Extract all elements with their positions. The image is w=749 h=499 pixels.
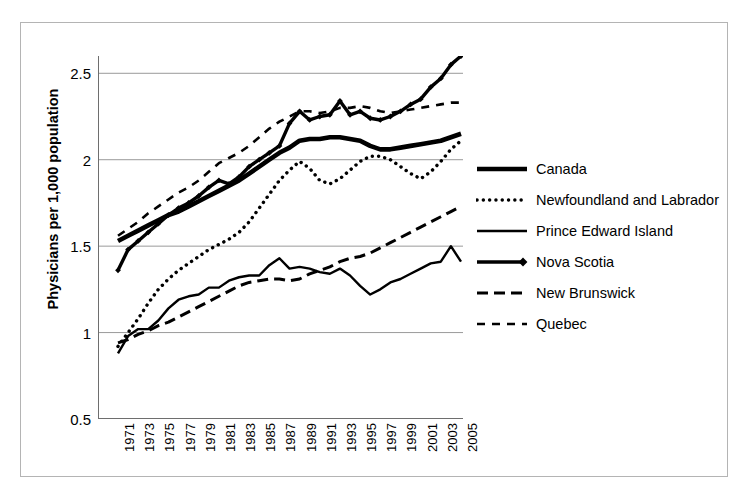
legend-item[interactable]: Prince Edward Island	[476, 215, 726, 246]
legend-item[interactable]: New Brunswick	[476, 277, 726, 308]
series-prince-edward-island	[118, 246, 461, 353]
x-tick-label: 1975	[163, 423, 176, 452]
series-line	[118, 56, 461, 270]
x-tick-label: 2003	[446, 423, 459, 452]
legend-item-label: Newfoundland and Labrador	[536, 192, 719, 208]
x-tick-label: 2005	[466, 423, 479, 452]
legend-item-label: Prince Edward Island	[536, 223, 673, 239]
y-tick-label: 1.5	[51, 239, 91, 254]
x-axis-tick-labels: 1971197319751977197919811983198519871989…	[98, 423, 468, 483]
series-line	[118, 134, 461, 241]
legend-swatch-marker	[519, 257, 528, 266]
figure-panel: Physicians per 1,000 population 0.511.52…	[20, 22, 728, 477]
legend-item[interactable]: Canada	[476, 153, 726, 184]
figure-inner: Physicians per 1,000 population 0.511.52…	[21, 23, 727, 476]
series-canada	[118, 134, 461, 241]
legend-swatch-dashed	[476, 283, 528, 303]
x-tick-label: 1997	[385, 423, 398, 452]
y-tick-label: 2	[51, 152, 91, 167]
x-tick-label: 1979	[204, 423, 217, 452]
x-tick-label: 1995	[365, 423, 378, 452]
x-tick-label: 1971	[123, 423, 136, 452]
chart-svg	[98, 56, 463, 419]
legend-item[interactable]: Quebec	[476, 308, 726, 339]
x-tick-label: 1973	[143, 423, 156, 452]
legend-item[interactable]: Newfoundland and Labrador	[476, 184, 726, 215]
x-tick-label: 2001	[426, 423, 439, 452]
legend-swatch-thick-diamond	[476, 252, 528, 272]
plot-area	[98, 56, 463, 419]
y-tick-label: 1	[51, 325, 91, 340]
x-tick-label: 1999	[405, 423, 418, 452]
y-tick-label: 0.5	[51, 412, 91, 427]
x-tick-label: 1983	[244, 423, 257, 452]
y-axis-tick-labels: 0.511.522.5	[47, 56, 91, 419]
legend-swatch-thick-solid	[476, 159, 528, 179]
y-tick-label: 2.5	[51, 66, 91, 81]
series-line	[118, 246, 461, 353]
series-line	[118, 141, 461, 347]
legend-swatch-dotted	[476, 190, 528, 210]
legend-item-label: Nova Scotia	[536, 254, 614, 270]
legend-item-label: New Brunswick	[536, 285, 635, 301]
series-nova-scotia	[115, 56, 463, 273]
x-tick-label: 1985	[264, 423, 277, 452]
x-tick-label: 1977	[184, 423, 197, 452]
series-newfoundland-and-labrador	[118, 141, 461, 347]
legend-swatch-thin-solid	[476, 221, 528, 241]
x-tick-label: 1991	[325, 423, 338, 452]
x-tick-label: 1993	[345, 423, 358, 452]
legend-item-label: Quebec	[536, 316, 587, 332]
chart-legend: CanadaNewfoundland and LabradorPrince Ed…	[476, 153, 726, 339]
legend-swatch-long-dash	[476, 314, 528, 334]
x-tick-label: 1981	[224, 423, 237, 452]
legend-item[interactable]: Nova Scotia	[476, 246, 726, 277]
x-tick-label: 1989	[305, 423, 318, 452]
legend-item-label: Canada	[536, 161, 587, 177]
x-tick-label: 1987	[284, 423, 297, 452]
